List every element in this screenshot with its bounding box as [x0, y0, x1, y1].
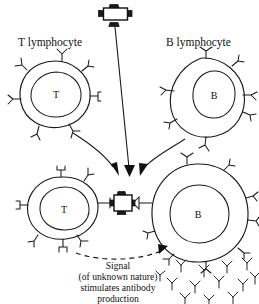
antibody-molecule	[242, 258, 252, 270]
t-lymphocyte-upper: T	[8, 49, 101, 140]
b-lymphocyte-upper: B	[160, 47, 257, 151]
antibody-molecule	[204, 295, 214, 304]
b-nucleus-label-upper: B	[211, 90, 218, 101]
b-receptor-binding-site	[133, 197, 152, 209]
antibody-molecule	[238, 279, 248, 291]
b-lymphocyte-label: B lymphocyte	[166, 36, 231, 49]
antigen-particle-top	[99, 5, 133, 27]
antibody-molecule	[180, 293, 190, 304]
t-nucleus-label-upper: T	[53, 89, 59, 100]
caption-line-3: stimulates antibody	[81, 282, 156, 293]
antibody-molecule	[190, 281, 200, 293]
caption-line-1: Signal	[106, 260, 131, 271]
t-lymphocyte-label: T lymphocyte	[18, 36, 82, 49]
flow-arrow-center	[115, 27, 129, 168]
flow-arrow-right-head	[139, 163, 148, 176]
flow-arrow-right	[144, 139, 185, 168]
antibody-molecule	[167, 278, 177, 290]
antibody-molecule	[222, 261, 232, 273]
figure-root: T lymphocyte B lymphocyte T B	[0, 0, 259, 304]
t-receptor-binding-site	[98, 198, 110, 208]
b-lymphocyte-lower: B	[143, 153, 259, 273]
b-nucleus-label-lower: B	[195, 209, 202, 220]
signal-arrow-path	[76, 250, 163, 259]
flow-arrow-left-head	[111, 162, 119, 176]
flow-arrow-center-head	[124, 165, 135, 177]
antigen-particle-center	[98, 192, 152, 215]
t-lymphocyte-lower: T	[16, 166, 98, 252]
signal-arrow	[76, 244, 168, 259]
t-nucleus-label-lower: T	[61, 204, 67, 215]
antibody-molecule	[250, 272, 259, 284]
lymphocyte-diagram: T lymphocyte B lymphocyte T B	[0, 0, 259, 304]
antibody-molecule	[214, 276, 224, 288]
antibody-molecule	[176, 260, 186, 272]
caption-line-4: production	[97, 293, 139, 304]
antibody-cloud	[156, 258, 259, 304]
antibody-molecule	[199, 265, 209, 277]
antibody-molecule	[228, 292, 238, 304]
flow-arrow-left	[73, 133, 113, 167]
